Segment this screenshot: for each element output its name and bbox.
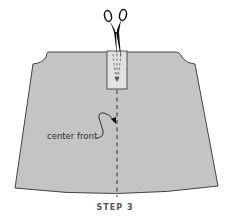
step-label: STEP 3 bbox=[0, 203, 230, 212]
pattern-diagram bbox=[0, 0, 230, 219]
center-front-label: center front bbox=[47, 131, 97, 141]
